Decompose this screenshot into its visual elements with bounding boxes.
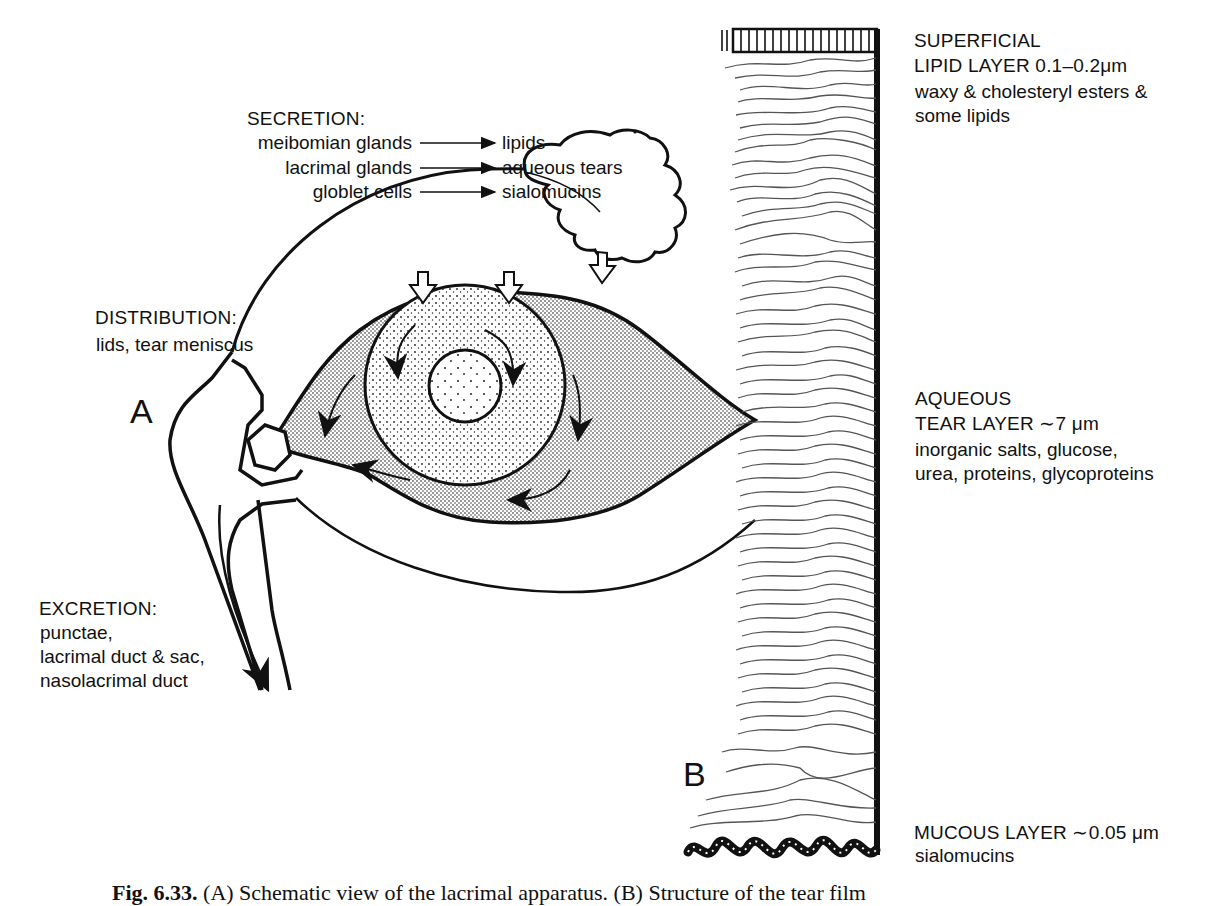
lipid-layer-desc-1: waxy & cholesteryl esters & <box>915 80 1147 103</box>
mucous-layer-name: MUCOUS LAYER ∼0.05 μm <box>914 821 1159 844</box>
secretion-source-lacrimal: lacrimal glands <box>212 157 412 179</box>
secretion-source-meibomian: meibomian glands <box>212 132 412 154</box>
distribution-text: lids, tear meniscus <box>96 333 253 356</box>
aqueous-layer-name-2: TEAR LAYER ∼7 μm <box>915 412 1099 435</box>
lipid-layer-name-1: SUPERFICIAL <box>914 29 1041 52</box>
excretion-line-1: punctae, <box>40 621 113 644</box>
aqueous-layer-desc-2: urea, proteins, glycoproteins <box>915 462 1154 485</box>
excretion-line-2: lacrimal duct & sac, <box>40 645 205 668</box>
panel-label-b: B <box>683 755 706 794</box>
secretion-source-goblet: globlet cells <box>212 181 412 203</box>
secretion-product-sialomucins: sialomucins <box>502 181 601 203</box>
figure-caption: Fig. 6.33. (A) Schematic view of the lac… <box>112 880 866 906</box>
aqueous-layer-name-1: AQUEOUS <box>915 387 1011 410</box>
secretion-product-lipids: lipids <box>502 132 545 154</box>
lipid-layer-name-2: LIPID LAYER 0.1–0.2μm <box>914 54 1127 77</box>
secretion-product-aqueous: aqueous tears <box>502 157 622 179</box>
caption-prefix: Fig. 6.33. <box>112 880 198 905</box>
secretion-arrows <box>420 143 495 192</box>
caption-text: (A) Schematic view of the lacrimal appar… <box>203 880 866 905</box>
distribution-heading: DISTRIBUTION: <box>95 306 237 329</box>
aqueous-layer-desc-1: inorganic salts, glucose, <box>915 438 1118 461</box>
excretion-line-3: nasolacrimal duct <box>40 669 188 692</box>
panel-label-a: A <box>130 392 153 431</box>
secretion-heading: SECRETION: <box>247 107 365 130</box>
excretion-heading: EXCRETION: <box>39 597 157 620</box>
eye-illustration <box>170 130 755 690</box>
lipid-layer-desc-2: some lipids <box>915 104 1010 127</box>
mucous-layer-desc: sialomucins <box>915 844 1014 867</box>
